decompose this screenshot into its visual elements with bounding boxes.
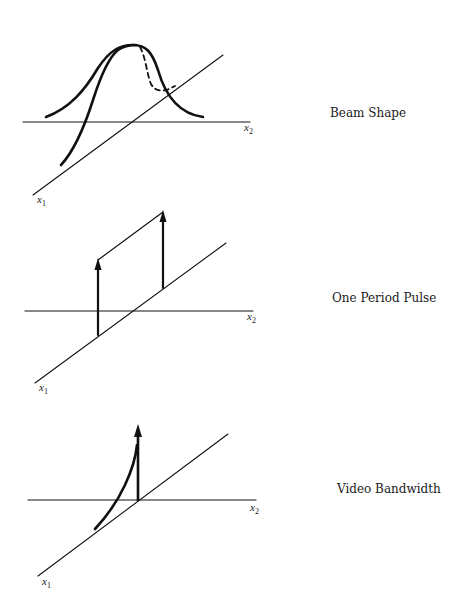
caption-video-bandwidth: Video Bandwidth: [337, 482, 441, 496]
x1-label: x1: [39, 381, 48, 396]
arrowhead-icon: [134, 424, 142, 437]
beam-profile-x2: [46, 45, 203, 117]
caption-one-period-pulse: One Period Pulse: [332, 291, 436, 305]
x1-label: x1: [42, 575, 51, 590]
x1-axis: [33, 55, 223, 195]
pulse-top-connector: [98, 212, 163, 260]
x2-label: x2: [244, 121, 253, 136]
x2-label: x2: [247, 310, 256, 325]
arrowhead-icon: [95, 258, 102, 270]
x2-label: x2: [250, 501, 259, 516]
x1-axis: [38, 434, 228, 576]
beam-shape-panel: [23, 45, 250, 195]
x1-axis: [35, 243, 226, 383]
x1-label: x1: [37, 193, 46, 208]
one-period-pulse-panel: [25, 212, 253, 383]
bandwidth-curve: [95, 445, 137, 529]
arrowhead-icon: [160, 210, 167, 222]
caption-beam-shape: Beam Shape: [330, 106, 406, 120]
video-bandwidth-panel: [28, 434, 256, 576]
